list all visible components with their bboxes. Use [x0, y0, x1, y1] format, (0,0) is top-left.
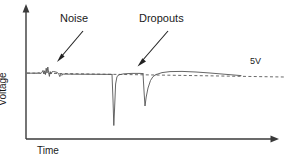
y-axis-label: Voltage [0, 72, 8, 105]
waveform-figure: Noise Dropouts 5V Time Voltage [0, 0, 288, 164]
trace-dropout-2 [143, 74, 156, 106]
annotation-label-dropouts: Dropouts [139, 13, 184, 24]
x-axis-label: Time [37, 146, 59, 156]
voltage-trace [27, 67, 241, 126]
dropouts-arrow-head [138, 58, 147, 66]
trace-dropout-1 [112, 74, 119, 125]
x-axis-arrowhead [271, 135, 280, 142]
y-axis [23, 4, 30, 139]
trace-segment-noise [37, 67, 72, 77]
x-axis [26, 135, 279, 142]
waveform-svg [0, 0, 288, 164]
dropouts-arrow-shaft [142, 31, 168, 61]
noise-arrow-shaft [61, 31, 83, 57]
noise-arrow [57, 31, 83, 62]
annotation-label-5v: 5V [250, 57, 261, 66]
dropouts-arrow [138, 31, 169, 67]
y-axis-arrowhead [23, 4, 30, 13]
annotation-label-noise: Noise [60, 13, 88, 24]
